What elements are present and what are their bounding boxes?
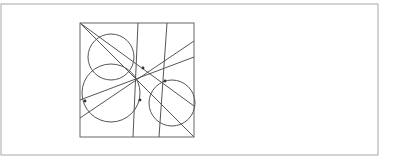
node-lower-center	[139, 99, 142, 102]
node-upper-center	[142, 67, 145, 70]
figure-canvas	[0, 0, 401, 159]
node-left-edge	[84, 100, 87, 103]
node-mid-right	[164, 80, 167, 83]
geometric-figure-svg	[0, 0, 401, 159]
